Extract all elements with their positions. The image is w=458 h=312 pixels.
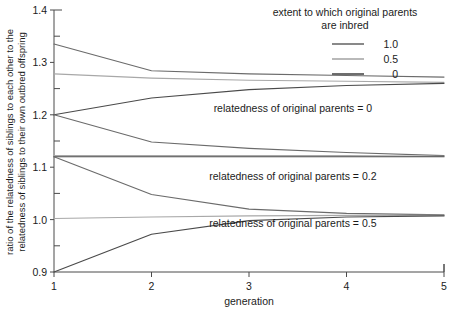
x-axis-ticks: 12345 bbox=[51, 272, 447, 292]
chart-root: ratio of the relatedness of siblings to … bbox=[0, 0, 458, 312]
chart-legend: extent to which original parents are inb… bbox=[273, 6, 418, 80]
y-tick-label: 1.0 bbox=[32, 214, 47, 226]
y-tick-label: 1.3 bbox=[32, 56, 47, 68]
legend-title-line1: extent to which original parents bbox=[273, 6, 418, 18]
series-line bbox=[54, 74, 444, 82]
group-annotation: relatedness of original parents = 0.5 bbox=[209, 217, 376, 229]
legend-entries: 1.00.50 bbox=[332, 38, 398, 80]
series-line bbox=[54, 156, 444, 157]
data-series-group bbox=[54, 44, 444, 272]
series-line bbox=[54, 115, 444, 156]
legend-label: 1.0 bbox=[383, 38, 398, 50]
group-annotations: relatedness of original parents = 0relat… bbox=[209, 102, 376, 229]
series-band bbox=[54, 115, 444, 157]
x-tick-label: 4 bbox=[344, 280, 350, 292]
legend-title-line2: are inbred bbox=[321, 19, 368, 31]
legend-label: 0.5 bbox=[383, 53, 398, 65]
x-tick-label: 3 bbox=[246, 280, 252, 292]
x-tick-label: 2 bbox=[149, 280, 155, 292]
group-annotation: relatedness of original parents = 0.2 bbox=[209, 170, 376, 182]
legend-label: 0 bbox=[392, 68, 398, 80]
y-tick-label: 1.4 bbox=[32, 4, 47, 16]
x-tick-label: 1 bbox=[51, 280, 57, 292]
y-tick-label: 1.1 bbox=[32, 161, 47, 173]
line-chart: ratio of the relatedness of siblings to … bbox=[0, 0, 458, 312]
series-line bbox=[54, 157, 444, 215]
y-axis-label: ratio of the relatedness of siblings to … bbox=[4, 29, 27, 255]
x-axis-label: generation bbox=[224, 295, 274, 307]
y-tick-label: 1.2 bbox=[32, 109, 47, 121]
y-axis-label-line1: ratio of the relatedness of siblings to … bbox=[4, 29, 15, 255]
x-tick-label: 5 bbox=[441, 280, 447, 292]
group-annotation: relatedness of original parents = 0 bbox=[214, 102, 373, 114]
y-tick-label: 0.9 bbox=[32, 266, 47, 278]
y-axis-label-line2: relatedness of siblings to their own out… bbox=[16, 32, 27, 252]
